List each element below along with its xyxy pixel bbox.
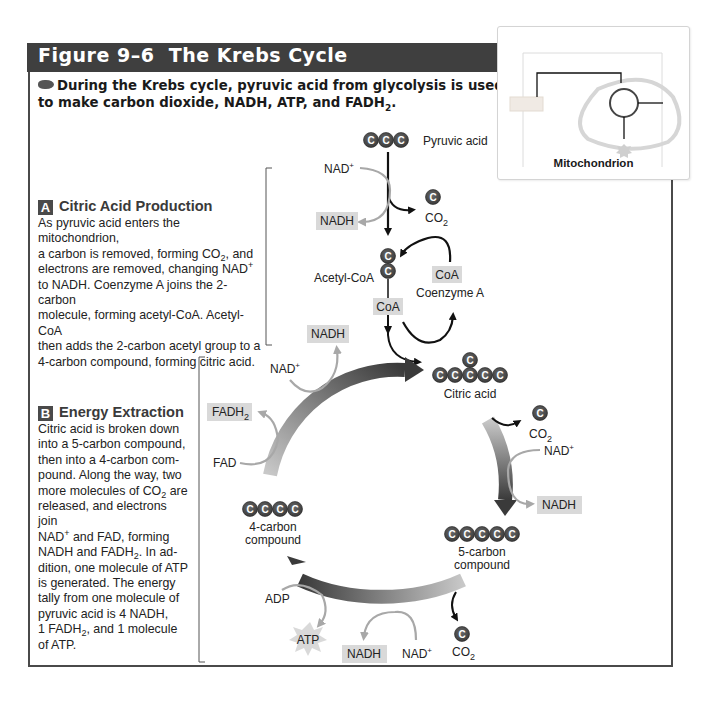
acetyl-coa-label: Acetyl-CoA <box>314 271 374 285</box>
pyruvic-acid-molecule: C C C <box>364 133 409 148</box>
adp-label: ADP <box>265 592 290 606</box>
co2-label-bottom: CO2 <box>452 645 475 662</box>
cycle-arc-bottom <box>300 580 463 597</box>
four-carbon-label-2: compound <box>245 533 301 547</box>
co2-carbon-top: C <box>426 190 441 205</box>
five-carbon-molecule: C C C C C <box>445 527 520 542</box>
cycle-arc-top <box>270 370 405 475</box>
svg-text:NADH: NADH <box>311 327 345 341</box>
svg-text:C: C <box>466 370 473 381</box>
section-b-bracket <box>199 357 205 662</box>
section-a-bracket <box>266 168 272 345</box>
svg-text:C: C <box>493 529 500 540</box>
acetyl-coa-molecule: C C <box>381 249 396 279</box>
mitochondrion-label: Mitochondrion <box>498 157 689 169</box>
svg-text:C: C <box>246 504 253 515</box>
svg-text:C: C <box>458 629 465 640</box>
svg-text:NADH: NADH <box>347 647 381 661</box>
atp-label: ATP <box>297 633 319 647</box>
nadh-label-a: NADH <box>320 214 354 228</box>
svg-text:C: C <box>429 192 436 203</box>
co2-carbon-bottom: C <box>455 627 470 642</box>
fad-label: FAD <box>213 456 237 470</box>
five-carbon-label-2: compound <box>454 558 510 572</box>
mitochondrion-inset: Mitochondrion <box>497 26 690 180</box>
svg-text:C: C <box>397 135 404 146</box>
svg-text:C: C <box>276 504 283 515</box>
svg-text:C: C <box>436 370 443 381</box>
svg-text:C: C <box>451 370 458 381</box>
nad-label-b1: NAD+ <box>270 361 300 376</box>
four-carbon-molecule: C C C C <box>243 502 303 517</box>
nad-label-b2: NAD+ <box>544 443 574 458</box>
svg-text:NADH: NADH <box>542 498 576 512</box>
four-carbon-label-1: 4-carbon <box>249 520 296 534</box>
svg-text:C: C <box>384 251 391 262</box>
svg-text:CoA: CoA <box>435 268 458 282</box>
co2-label-top: CO2 <box>425 211 448 228</box>
coenzyme-a-label: Coenzyme A <box>416 286 484 300</box>
svg-text:C: C <box>367 135 374 146</box>
nad-label-b3: NAD+ <box>402 646 432 661</box>
co2-carbon-right: C <box>533 406 548 421</box>
pyruvic-acid-label: Pyruvic acid <box>423 134 488 148</box>
svg-text:C: C <box>291 504 298 515</box>
cycle-arc-right <box>488 420 506 500</box>
svg-text:C: C <box>384 266 391 277</box>
nad-label-a: NAD+ <box>324 161 354 176</box>
svg-text:C: C <box>463 529 470 540</box>
svg-text:CoA: CoA <box>376 300 399 314</box>
svg-text:C: C <box>382 135 389 146</box>
svg-text:C: C <box>508 529 515 540</box>
svg-text:C: C <box>261 504 268 515</box>
svg-text:C: C <box>496 370 503 381</box>
svg-text:C: C <box>536 408 543 419</box>
co2-label-right: CO2 <box>529 427 552 444</box>
citric-acid-molecule: C C C C C C <box>433 353 508 383</box>
citric-acid-label: Citric acid <box>444 387 497 401</box>
svg-text:C: C <box>481 370 488 381</box>
svg-text:C: C <box>466 355 473 366</box>
svg-text:C: C <box>478 529 485 540</box>
svg-text:C: C <box>448 529 455 540</box>
five-carbon-label-1: 5-carbon <box>458 545 505 559</box>
